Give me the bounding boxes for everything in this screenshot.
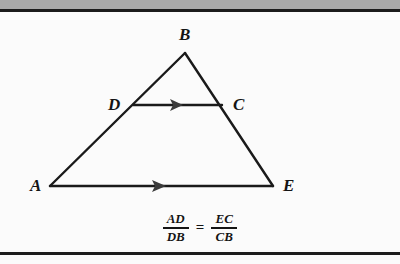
fraction-right: EC CB xyxy=(211,212,237,243)
fraction-right-numerator: EC xyxy=(214,212,235,227)
fraction-left-denominator: DB xyxy=(165,229,187,244)
vertex-label-e: E xyxy=(283,177,294,194)
fraction-right-denominator: CB xyxy=(214,229,235,244)
segment-be xyxy=(185,53,273,186)
top-gray-band xyxy=(0,0,400,9)
vertex-label-c: C xyxy=(233,96,244,113)
fraction-left-numerator: AD xyxy=(165,212,187,227)
diagram-canvas: A B C D E AD DB = EC CB xyxy=(0,12,400,252)
geometry-figure: A B C D E AD DB = EC CB xyxy=(0,0,400,264)
vertex-label-b: B xyxy=(179,26,190,43)
proportion-formula: AD DB = EC CB xyxy=(0,212,400,243)
fraction-left: AD DB xyxy=(163,212,189,243)
vertex-label-a: A xyxy=(30,177,41,194)
segment-ab xyxy=(50,53,185,186)
equals-sign: = xyxy=(196,219,205,236)
vertex-label-d: D xyxy=(108,96,120,113)
bottom-divider-rule xyxy=(0,252,400,255)
